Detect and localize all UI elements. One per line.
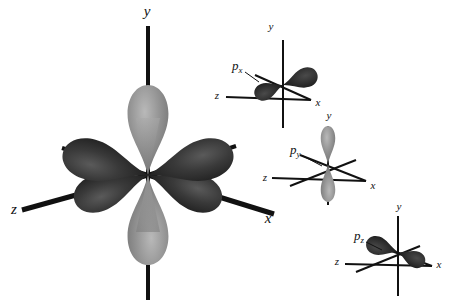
pz-label-y: y (396, 200, 402, 212)
py-label-y: y (326, 109, 332, 121)
pz-label-x: x (436, 258, 442, 270)
main-label-x: x (264, 210, 272, 226)
main-label-y: y (142, 3, 151, 19)
px-label-y: y (268, 20, 274, 32)
pz-label-z: z (334, 255, 340, 267)
py-label-z: z (262, 171, 268, 183)
py-label-x: x (370, 179, 376, 191)
p-orbital-figure: y x z px y x z (0, 0, 451, 304)
orbital-illustration: y x z px y x z (0, 0, 451, 304)
px-label-z: z (214, 89, 220, 101)
main-label-z: z (10, 201, 17, 217)
px-label-x: x (315, 96, 321, 108)
